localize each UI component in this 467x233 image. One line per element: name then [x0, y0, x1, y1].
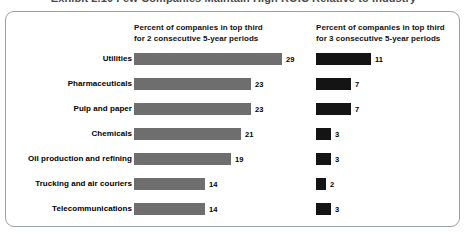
category-label: Telecommunications — [52, 204, 132, 213]
bar-value-two-periods: 29 — [286, 55, 294, 64]
bar-two-periods — [134, 178, 205, 190]
bar-three-periods — [316, 53, 371, 65]
bar-value-two-periods: 19 — [235, 155, 243, 164]
bar-value-two-periods: 23 — [255, 80, 263, 89]
bar-value-three-periods: 7 — [355, 105, 359, 114]
bar-three-periods — [316, 203, 331, 215]
bar-value-three-periods: 7 — [355, 80, 359, 89]
clipped-exhibit-title: Exhibit 2.10 Few Companies Maintain High… — [0, 0, 467, 8]
bar-value-three-periods: 3 — [335, 205, 339, 214]
bar-two-periods — [134, 153, 231, 165]
clipped-exhibit-title-text: Exhibit 2.10 Few Companies Maintain High… — [0, 0, 467, 4]
chart-row: Utilities2911 — [6, 50, 461, 75]
bar-three-periods — [316, 178, 326, 190]
chart-row: Chemicals213 — [6, 125, 461, 150]
chart-row: Telecommunications143 — [6, 200, 461, 225]
bar-value-three-periods: 11 — [375, 55, 383, 64]
category-label: Oil production and refining — [28, 154, 132, 163]
bar-two-periods — [134, 78, 251, 90]
column-header-three-periods: Percent of companies in top third for 3 … — [316, 23, 467, 44]
chart-row: Pulp and paper237 — [6, 100, 461, 125]
chart-row: Pharmaceuticals237 — [6, 75, 461, 100]
chart-frame: Percent of companies in top third for 2 … — [5, 11, 460, 227]
category-label: Chemicals — [92, 129, 132, 138]
chart-row: Trucking and air couriers142 — [6, 175, 461, 200]
category-label: Pulp and paper — [74, 104, 133, 113]
column-header-two-periods: Percent of companies in top third for 2 … — [134, 23, 309, 44]
chart-rows: Utilities2911Pharmaceuticals237Pulp and … — [6, 50, 461, 225]
category-label: Pharmaceuticals — [68, 79, 132, 88]
bar-value-three-periods: 2 — [330, 180, 334, 189]
bar-two-periods — [134, 103, 251, 115]
category-label: Trucking and air couriers — [35, 179, 132, 188]
bar-two-periods — [134, 128, 241, 140]
bar-value-three-periods: 3 — [335, 155, 339, 164]
bar-value-two-periods: 14 — [209, 180, 217, 189]
bar-two-periods — [134, 53, 282, 65]
bar-three-periods — [316, 78, 351, 90]
bar-two-periods — [134, 203, 205, 215]
category-label: Utilities — [103, 54, 132, 63]
chart-row: Oil production and refining193 — [6, 150, 461, 175]
bar-three-periods — [316, 103, 351, 115]
bar-three-periods — [316, 128, 331, 140]
bar-value-two-periods: 21 — [245, 130, 253, 139]
bar-value-two-periods: 14 — [209, 205, 217, 214]
bar-value-two-periods: 23 — [255, 105, 263, 114]
bar-value-three-periods: 3 — [335, 130, 339, 139]
bar-three-periods — [316, 153, 331, 165]
